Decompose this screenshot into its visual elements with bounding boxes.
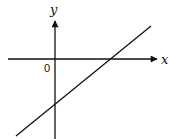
y-axis-label: y xyxy=(49,2,58,17)
x-axis-label: x xyxy=(161,52,169,67)
coordinate-diagram: x y 0 xyxy=(0,0,170,139)
origin-label: 0 xyxy=(44,62,50,74)
plotted-line xyxy=(16,26,151,136)
